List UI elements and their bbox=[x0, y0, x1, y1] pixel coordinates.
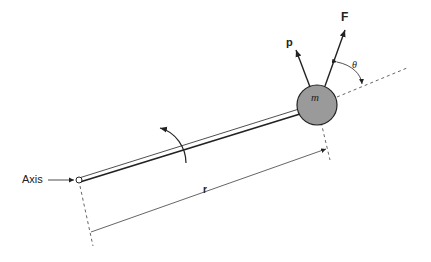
momentum-vector-arrow bbox=[296, 50, 310, 87]
extension-line bbox=[337, 68, 407, 97]
axis-label: Axis bbox=[22, 173, 43, 185]
rotating-mass-diagram: Axis r m F p θ bbox=[0, 0, 431, 262]
radius-dimension bbox=[80, 105, 330, 246]
mass-label: m bbox=[311, 91, 319, 103]
rod bbox=[79, 109, 300, 182]
angle-arc-icon bbox=[337, 62, 362, 84]
angle-label: θ bbox=[352, 59, 357, 70]
momentum-label: p bbox=[286, 36, 293, 48]
rotation-arrow-icon bbox=[160, 128, 186, 163]
pivot-icon bbox=[76, 177, 82, 183]
force-label: F bbox=[341, 10, 348, 24]
radius-label: r bbox=[203, 184, 207, 195]
force-vector-arrow bbox=[325, 30, 345, 86]
diagram-drawing bbox=[0, 0, 431, 262]
